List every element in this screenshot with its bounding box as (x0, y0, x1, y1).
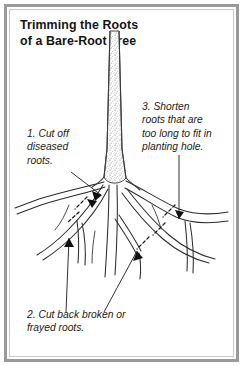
taproot-right (115, 185, 117, 275)
root-branchlet-center-a (119, 215, 141, 251)
root-branchlet-left-b (82, 223, 85, 265)
callout-1-line-1: 1. Cut off (27, 127, 69, 140)
callout-3-line-3: too long to fit in (142, 127, 212, 140)
cut-mark-right-lower (153, 223, 165, 235)
callout-1: 1. Cut off diseased roots. (27, 127, 69, 167)
cut-marks (67, 197, 175, 249)
callout-2-line-2: frayed roots. (27, 321, 125, 334)
figure-card: Trimming the Roots of a Bare-Root Tree (0, 0, 243, 366)
bare-root-tree-illustration (9, 9, 234, 357)
callout-1-line-2: diseased (27, 140, 69, 153)
callout-3: 3. Shorten roots that are too long to fi… (142, 100, 212, 154)
root-branchlet-right-a (185, 221, 187, 271)
callout-2-line-1: 2. Cut back broken or (27, 308, 125, 321)
taproot-left (105, 185, 109, 277)
leader-line-callout-2-right (104, 251, 137, 312)
lateral-root-left-mid-b (43, 189, 108, 260)
root-branchlet-right-b (190, 223, 193, 273)
root-system (15, 177, 228, 279)
cut-mark-center-lower (137, 237, 149, 249)
trunk-group (104, 31, 126, 183)
callout-3-line-1: 3. Shorten (142, 100, 212, 113)
root-branchlet-left-a (77, 221, 79, 263)
fine-root-3 (92, 231, 95, 263)
callout-2: 2. Cut back broken or frayed roots. (27, 308, 125, 335)
callout-1-line-3: roots. (27, 154, 69, 167)
trunk (104, 31, 126, 183)
callout-3-line-4: planting hole. (142, 140, 212, 153)
leader-line-callout-2-left (66, 238, 69, 312)
callout-3-line-2: roots that are (142, 113, 212, 126)
cut-mark-upper-left (75, 197, 87, 209)
fine-root-1 (55, 205, 69, 230)
